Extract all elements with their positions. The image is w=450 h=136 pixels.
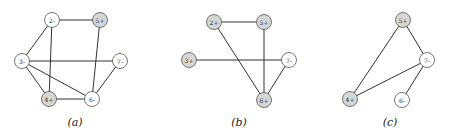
node-label: 7-	[117, 58, 123, 65]
node-label: 2-	[49, 17, 55, 24]
edge-7-4	[350, 60, 427, 99]
node-label: 3-	[19, 58, 25, 65]
node-label: 5+	[96, 17, 105, 24]
node-label: 6-	[89, 96, 95, 103]
node-label: 5+	[260, 19, 269, 26]
panel-caption: (c)	[383, 116, 398, 129]
node-label: 6-	[399, 97, 405, 104]
node-label: 2+	[210, 19, 219, 26]
panel-caption: (a)	[67, 116, 82, 129]
edge-5-6	[92, 20, 100, 99]
signed-graph-diagram: 2-5+3-7-4+6-(a)2+5+3+7-6+(b)5+7-4+6-(c)	[0, 0, 450, 136]
panel-caption: (b)	[231, 116, 247, 129]
node-label: 4+	[346, 96, 355, 103]
node-label: 5+	[399, 17, 408, 24]
graph-panel-b: 2+5+3+7-6+(b)	[182, 15, 297, 130]
node-label: 3+	[185, 57, 194, 64]
graph-panel-c: 5+7-4+6-(c)	[343, 13, 435, 130]
edge-5-4	[350, 20, 403, 99]
edge-3-6	[22, 61, 92, 99]
edge-2-6	[214, 22, 264, 100]
node-label: 7-	[424, 57, 430, 64]
edge-2-4	[49, 20, 52, 99]
node-label: 6+	[260, 97, 269, 104]
graph-panel-a: 2-5+3-7-4+6-(a)	[15, 13, 128, 130]
node-label: 7-	[286, 57, 292, 64]
node-label: 4+	[45, 96, 54, 103]
